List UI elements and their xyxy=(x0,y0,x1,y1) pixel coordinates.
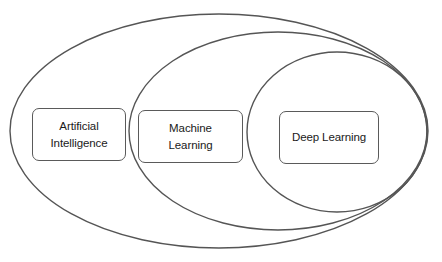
ai-ml-dl-nested-diagram: Artificial Intelligence Machine Learning… xyxy=(0,0,442,262)
label-box-machine-learning: Machine Learning xyxy=(138,110,243,163)
label-deep-learning: Deep Learning xyxy=(292,129,366,146)
label-box-deep-learning: Deep Learning xyxy=(279,111,379,164)
label-machine-learning: Machine Learning xyxy=(169,120,213,154)
label-box-artificial-intelligence: Artificial Intelligence xyxy=(32,108,126,161)
label-artificial-intelligence: Artificial Intelligence xyxy=(51,118,108,152)
